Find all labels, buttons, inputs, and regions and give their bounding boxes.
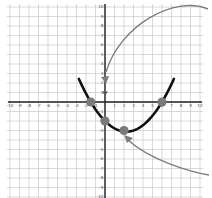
- x-tick-label: 9: [189, 103, 192, 108]
- y-tick-label: -3: [99, 128, 104, 133]
- point-x-intercept: [157, 97, 166, 106]
- arrow-top-icon: [106, 6, 208, 72]
- parabola-graph: -10-9-8-7-6-5-4-3-2-112345678910-10-9-8-…: [0, 0, 212, 198]
- x-tick-label: -4: [65, 103, 70, 108]
- y-tick-label: 4: [101, 61, 104, 66]
- y-tick-label: 8: [101, 23, 104, 28]
- y-tick-label: 7: [101, 33, 104, 38]
- y-tick-label: -6: [99, 156, 104, 161]
- x-tick-label: -10: [7, 103, 14, 108]
- y-tick-label: -4: [99, 137, 104, 142]
- point-vertex: [119, 126, 128, 135]
- y-tick-label: -1: [99, 109, 104, 114]
- y-tick-label: -8: [99, 175, 104, 180]
- x-tick-label: -5: [55, 103, 60, 108]
- point-y-intercept: [100, 116, 109, 125]
- y-tick-label: 5: [101, 52, 104, 57]
- y-tick-label: 3: [101, 71, 104, 76]
- x-tick-label: 4: [142, 103, 145, 108]
- x-tick-label: 8: [180, 103, 183, 108]
- arrowhead-bottom-icon: [124, 135, 133, 143]
- x-tick-label: 7: [170, 103, 173, 108]
- axes: [8, 4, 202, 198]
- y-tick-label: -5: [99, 147, 104, 152]
- x-tick-label: -3: [74, 103, 79, 108]
- x-tick-label: -6: [46, 103, 51, 108]
- y-tick-label: -9: [99, 185, 104, 190]
- x-tick-label: 3: [132, 103, 135, 108]
- x-tick-label: -7: [36, 103, 41, 108]
- x-tick-label: -8: [27, 103, 32, 108]
- y-tick-label: 6: [101, 42, 104, 47]
- y-tick-label: -7: [99, 166, 104, 171]
- x-tick-label: 2: [123, 103, 126, 108]
- x-tick-label: 10: [197, 103, 203, 108]
- arrow-bottom-icon: [128, 140, 209, 175]
- point-x-intercept: [86, 97, 95, 106]
- y-tick-label: -10: [97, 194, 104, 198]
- y-tick-label: 10: [98, 4, 104, 9]
- y-tick-label: 9: [101, 14, 104, 19]
- y-tick-label: 2: [101, 80, 104, 85]
- x-tick-label: -9: [17, 103, 22, 108]
- x-tick-label: 5: [151, 103, 154, 108]
- x-tick-label: 1: [113, 103, 116, 108]
